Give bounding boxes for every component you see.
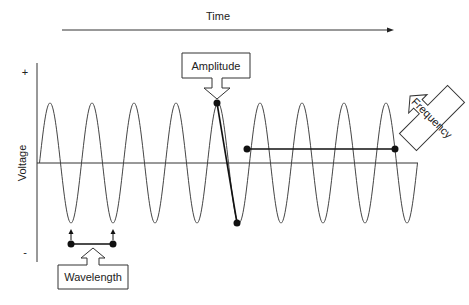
wavelength-callout: Wavelength xyxy=(58,248,128,289)
amplitude-label: Amplitude xyxy=(192,60,241,72)
waveform-diagram: Time + - Voltage Amplitude Frequency xyxy=(0,0,469,305)
plus-label: + xyxy=(22,66,28,78)
time-arrow xyxy=(62,28,394,33)
wavelength-marker xyxy=(68,229,117,248)
wavelength-label: Wavelength xyxy=(64,271,122,283)
amplitude-callout: Amplitude xyxy=(182,53,250,99)
voltage-label: Voltage xyxy=(16,145,28,182)
time-label: Time xyxy=(206,10,230,22)
frequency-marker xyxy=(244,146,399,153)
minus-label: - xyxy=(23,246,27,258)
